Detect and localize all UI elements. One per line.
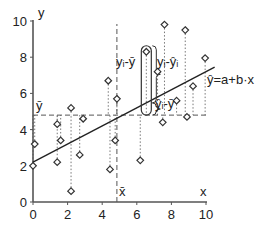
data-point-diamond bbox=[137, 157, 144, 164]
data-point-diamond bbox=[54, 159, 61, 166]
equation-label: ŷ=a+b·x bbox=[207, 72, 254, 87]
x-tick-label: 8 bbox=[168, 207, 175, 222]
x-tick-label: 2 bbox=[64, 207, 71, 222]
y-bar-label: ȳ bbox=[36, 98, 43, 113]
data-point-diamond bbox=[107, 166, 114, 173]
data-point-diamond bbox=[68, 105, 75, 112]
data-point-diamond bbox=[57, 137, 64, 144]
data-point-diamond bbox=[202, 55, 209, 62]
y-tick-label: 2 bbox=[20, 159, 27, 174]
y-tick-label: 6 bbox=[20, 86, 27, 101]
data-point-diamond bbox=[112, 137, 119, 144]
data-point-diamond bbox=[159, 119, 166, 126]
data-point-diamond bbox=[143, 48, 150, 55]
data-point-diamond bbox=[114, 96, 121, 103]
labels: y x ȳ x̄ ŷ=a+b·x yᵢ-ȳ yᵢ-ŷᵢ ŷᵢ-ȳ bbox=[36, 5, 254, 199]
x-bar-label: x̄ bbox=[119, 184, 126, 199]
data-point-diamond bbox=[30, 163, 37, 170]
x-tick-label: 10 bbox=[199, 207, 213, 222]
y-tick-label: 4 bbox=[20, 123, 27, 138]
axes: 02468100246810 bbox=[13, 14, 214, 222]
total-deviation-label: yᵢ-ȳ bbox=[116, 54, 136, 69]
residual-label: yᵢ-ŷᵢ bbox=[157, 54, 178, 69]
y-axis-label: y bbox=[38, 5, 45, 20]
data-point-diamond bbox=[76, 152, 83, 159]
mean-lines bbox=[33, 24, 208, 202]
data-point-diamond bbox=[68, 188, 75, 195]
data-point-diamond bbox=[182, 27, 189, 34]
y-tick-label: 8 bbox=[20, 50, 27, 65]
data-point-diamond bbox=[80, 115, 87, 122]
data-point-diamond bbox=[184, 114, 191, 121]
regression-diagram: 02468100246810 y x ȳ x̄ ŷ=a+b·x yᵢ-ȳ yᵢ-… bbox=[0, 0, 267, 225]
y-tick-label: 0 bbox=[20, 195, 27, 210]
data-points bbox=[30, 21, 209, 194]
x-tick-label: 4 bbox=[99, 207, 106, 222]
x-tick-label: 0 bbox=[29, 207, 36, 222]
data-point-diamond bbox=[190, 83, 197, 90]
x-axis-label: x bbox=[200, 184, 207, 199]
x-tick-label: 6 bbox=[133, 207, 140, 222]
deviation-lines bbox=[33, 25, 205, 192]
explained-deviation-label: ŷᵢ-ȳ bbox=[155, 96, 175, 111]
plot-area: 02468100246810 y x ȳ x̄ ŷ=a+b·x yᵢ-ȳ yᵢ-… bbox=[0, 0, 267, 225]
data-point-diamond bbox=[161, 21, 168, 28]
y-tick-label: 10 bbox=[13, 14, 27, 29]
data-point-diamond bbox=[105, 77, 112, 84]
data-point-diamond bbox=[54, 121, 61, 128]
